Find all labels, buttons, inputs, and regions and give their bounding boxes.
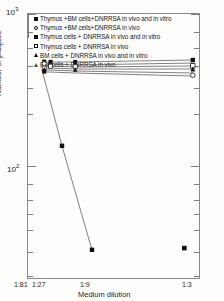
legend-marker-filled-triangle-icon (31, 53, 40, 57)
y-tick-right (194, 252, 199, 253)
y-tick (28, 166, 36, 167)
legend-label: Thymus cells + DNRRSA in vivo and in vit… (40, 32, 160, 41)
y-tick-right (194, 230, 199, 231)
y-tick-right (194, 200, 199, 201)
legend-marker-open-circle-icon (31, 26, 40, 30)
x-axis-title: Medium dilution (78, 290, 131, 299)
x-tick-label-1: 1:27 (32, 281, 46, 288)
y-tick-right (191, 166, 199, 167)
legend-item: Thymus cells + DNRRSA in vivo (31, 42, 199, 51)
x-tick-label-0: 1:81 (14, 281, 28, 288)
y-tick-right (194, 184, 199, 185)
x-tick-label-2: 1:9 (80, 281, 90, 288)
legend-item: Thymus cells + DNRRSA in vivo and in vit… (31, 32, 199, 41)
y-axis-top-exponent: 103 (6, 6, 18, 17)
y-tick (28, 276, 33, 277)
y-tick (28, 252, 33, 253)
y-tick-right (194, 276, 199, 277)
y-tick (28, 200, 33, 201)
legend-marker-open-square-icon (31, 44, 40, 48)
legend-label: BM cells + DNRRSA in vivo and in vitro (40, 51, 147, 60)
legend-item: Thymus +BM cells+DNRRSA in vivo and in v… (31, 14, 199, 23)
legend-marker-open-triangle-icon (31, 63, 40, 67)
legend-item: BM cells + DNRRSA in vivo (31, 60, 199, 69)
y-tick (28, 184, 33, 185)
y-tick (28, 230, 33, 231)
legend-label: Thymus +BM cells+DNRRSA in vivo and in v… (40, 14, 171, 23)
legend-label: BM cells + DNRRSA in vivo (40, 60, 116, 69)
y-tick (28, 88, 33, 89)
legend-item: BM cells + DNRRSA in vivo and in vitro (31, 51, 199, 60)
legend-marker-filled-square-icon (31, 35, 40, 39)
y-tick (28, 114, 33, 115)
y-tick-right (194, 214, 199, 215)
y-axis-mid-exponent: 102 (7, 163, 19, 174)
y-tick-right (194, 114, 199, 115)
legend-label: Thymus +BM cells+DNRRSA in vivo (40, 23, 140, 32)
legend-marker-filled-square-icon (31, 17, 40, 21)
legend-item: Thymus +BM cells+DNRRSA in vivo (31, 23, 199, 32)
figure-container: 103 102 Number of plaques (0, 0, 224, 301)
y-axis-title: Number of plaques (0, 0, 3, 96)
y-tick-right (194, 88, 199, 89)
legend-label: Thymus cells + DNRRSA in vivo (40, 42, 128, 51)
legend: Thymus +BM cells+DNRRSA in vivo and in v… (31, 14, 199, 69)
y-tick (28, 214, 33, 215)
x-tick-label-3: 1:3 (182, 281, 192, 288)
